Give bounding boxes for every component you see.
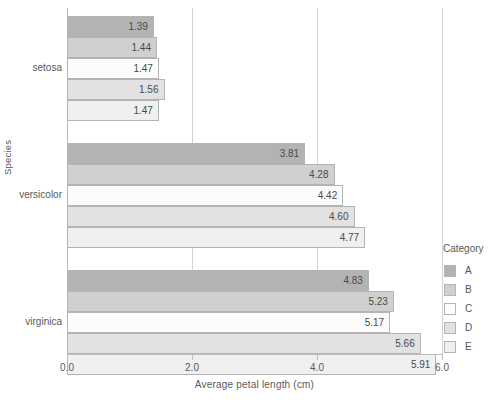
bar[interactable]: 1.47 (67, 58, 159, 79)
bar-value-label: 5.23 (368, 296, 392, 307)
bar-value-label: 3.81 (280, 148, 304, 159)
bar[interactable]: 5.91 (67, 354, 436, 375)
bar-value-label: 1.47 (133, 63, 157, 74)
x-axis-tick-label: 2.0 (172, 362, 212, 373)
legend-item-label: C (465, 303, 472, 314)
legend-item-label: A (465, 265, 472, 276)
legend-item-label: D (465, 322, 472, 333)
bar-value-label: 4.83 (343, 275, 367, 286)
legend-item[interactable]: A (444, 261, 497, 280)
x-axis-tick-label: 4.0 (297, 362, 337, 373)
bar[interactable]: 5.66 (67, 333, 421, 354)
legend-title: Category (443, 243, 497, 254)
x-axis-line (67, 354, 442, 355)
bar[interactable]: 5.17 (67, 312, 390, 333)
legend-swatch-icon (444, 322, 456, 334)
legend-item-label: B (465, 284, 472, 295)
x-axis-tick-label: 6.0 (422, 362, 462, 373)
legend-item[interactable]: B (444, 280, 497, 299)
bar-chart: Species setosaversicolorvirginica 1.391.… (0, 0, 497, 404)
bar[interactable]: 5.23 (67, 291, 394, 312)
y-axis-tick-label: versicolor (4, 189, 62, 200)
x-axis-tick (67, 354, 68, 360)
legend-item[interactable]: D (444, 318, 497, 337)
y-axis-tick-label: virginica (4, 316, 62, 327)
bar[interactable]: 4.83 (67, 270, 369, 291)
legend-item[interactable]: C (444, 299, 497, 318)
bar[interactable]: 1.56 (67, 79, 165, 100)
bar[interactable]: 4.60 (67, 206, 355, 227)
legend-item-label: E (465, 341, 472, 352)
legend-swatch-icon (444, 284, 456, 296)
legend: Category ABCDE (441, 243, 497, 356)
legend-swatch-icon (444, 341, 456, 353)
y-axis-tick-labels: setosaversicolorvirginica (0, 0, 62, 404)
bar-value-label: 1.56 (139, 84, 163, 95)
bar-value-label: 1.47 (133, 105, 157, 116)
legend-items: ABCDE (441, 261, 497, 356)
x-axis-tick-label: 0.0 (47, 362, 87, 373)
x-axis-title: Average petal length (cm) (67, 379, 442, 390)
legend-swatch-icon (444, 265, 456, 277)
bar-value-label: 4.60 (329, 211, 353, 222)
bar[interactable]: 1.47 (67, 100, 159, 121)
bar[interactable]: 4.77 (67, 227, 365, 248)
plot-area: 1.391.441.471.561.473.814.284.424.604.77… (67, 8, 442, 354)
bar-value-label: 4.42 (318, 190, 342, 201)
legend-item[interactable]: E (444, 337, 497, 356)
bar-value-label: 5.17 (365, 317, 389, 328)
bar[interactable]: 1.44 (67, 37, 157, 58)
x-axis-tick (317, 354, 318, 360)
bar-value-label: 4.28 (309, 169, 333, 180)
bar-value-label: 4.77 (340, 232, 364, 243)
bar[interactable]: 1.39 (67, 16, 154, 37)
bar-value-label: 1.44 (132, 42, 156, 53)
bar[interactable]: 4.42 (67, 185, 343, 206)
x-axis-tick (192, 354, 193, 360)
bar-value-label: 1.39 (128, 21, 152, 32)
bar[interactable]: 3.81 (67, 143, 305, 164)
bar[interactable]: 4.28 (67, 164, 335, 185)
legend-swatch-icon (444, 303, 456, 315)
bar-value-label: 5.66 (395, 338, 419, 349)
y-axis-tick-label: setosa (4, 62, 62, 73)
